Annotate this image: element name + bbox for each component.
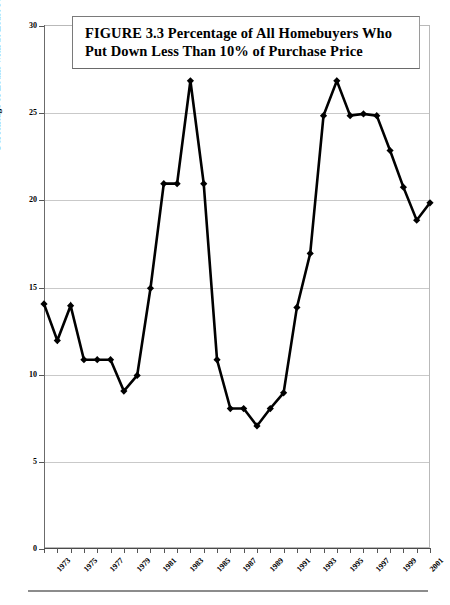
y-axis-tick-label: 0 xyxy=(33,545,37,553)
figure-page: 302520151050 197319751977197919811983198… xyxy=(0,0,450,605)
x-tick-mark xyxy=(177,548,178,553)
x-tick-mark xyxy=(204,548,205,553)
y-axis-tick-label: 10 xyxy=(29,371,37,379)
footer-text-fragment xyxy=(28,596,228,604)
x-tick-mark xyxy=(44,548,45,553)
x-tick-mark xyxy=(84,548,85,553)
x-tick-mark xyxy=(417,548,418,553)
x-tick-mark xyxy=(270,548,271,553)
y-axis-tick-label: 25 xyxy=(29,109,37,117)
x-axis-tick-label: 1973 xyxy=(55,556,73,574)
x-tick-mark xyxy=(150,548,151,553)
gridline-y xyxy=(45,375,429,376)
gridline-y xyxy=(45,113,429,114)
x-axis-tick-label: 1995 xyxy=(347,556,365,574)
x-tick-mark xyxy=(190,548,191,553)
x-axis-tick-label: 1997 xyxy=(374,556,392,574)
x-axis-tick-label: 1989 xyxy=(268,556,286,574)
x-tick-mark xyxy=(217,548,218,553)
x-axis-tick-label: 1977 xyxy=(108,556,126,574)
y-axis-tick-label: 30 xyxy=(29,22,37,30)
x-tick-mark xyxy=(97,548,98,553)
footer-divider xyxy=(28,590,428,592)
x-tick-mark xyxy=(337,548,338,553)
x-axis-tick-label: 1987 xyxy=(241,556,259,574)
plot-area: 302520151050 xyxy=(44,25,430,548)
x-tick-mark xyxy=(230,548,231,553)
x-tick-mark xyxy=(257,548,258,553)
x-tick-mark xyxy=(403,548,404,553)
x-tick-mark xyxy=(137,548,138,553)
x-axis-tick-label: 1991 xyxy=(294,556,312,574)
x-tick-mark xyxy=(324,548,325,553)
y-axis-tick-label: 20 xyxy=(29,196,37,204)
x-axis-tick-label: 1983 xyxy=(188,556,206,574)
x-tick-mark xyxy=(390,548,391,553)
figure-title-box: FIGURE 3.3 Percentage of All Homebuyers … xyxy=(72,16,420,69)
x-tick-mark xyxy=(350,548,351,553)
x-axis-tick-label: 1975 xyxy=(81,556,99,574)
x-axis-tick-label: 1999 xyxy=(401,556,419,574)
x-axis-tick-label: 1985 xyxy=(214,556,232,574)
figure-title-line-1: FIGURE 3.3 Percentage of All Homebuyers … xyxy=(85,24,409,42)
x-tick-mark xyxy=(297,548,298,553)
figure-title-line-2: Put Down Less Than 10% of Purchase Price xyxy=(85,42,409,60)
y-axis-tick-label: 15 xyxy=(29,284,37,292)
gridline-y xyxy=(45,200,429,201)
x-tick-mark xyxy=(284,548,285,553)
y-axis-title: Percentage of Loans with at Least 90% Lo… xyxy=(0,0,2,150)
x-axis-tick-label: 1979 xyxy=(135,556,153,574)
x-tick-mark xyxy=(363,548,364,553)
x-tick-mark xyxy=(57,548,58,553)
x-tick-mark xyxy=(310,548,311,553)
y-axis-tick-label: 5 xyxy=(33,458,37,466)
x-tick-mark xyxy=(244,548,245,553)
x-tick-mark xyxy=(430,548,431,553)
x-axis-tick-label: 1981 xyxy=(161,556,179,574)
x-axis-spine: 1973197519771979198119831985198719891991… xyxy=(44,548,431,549)
x-axis-tick-label: 2001 xyxy=(427,556,445,574)
x-tick-mark xyxy=(124,548,125,553)
x-tick-mark xyxy=(377,548,378,553)
x-tick-mark xyxy=(164,548,165,553)
gridline-y xyxy=(45,462,429,463)
x-tick-mark xyxy=(71,548,72,553)
x-tick-mark xyxy=(111,548,112,553)
y-axis-spine xyxy=(44,25,45,549)
x-axis-tick-label: 1993 xyxy=(321,556,339,574)
gridline-y xyxy=(45,288,429,289)
